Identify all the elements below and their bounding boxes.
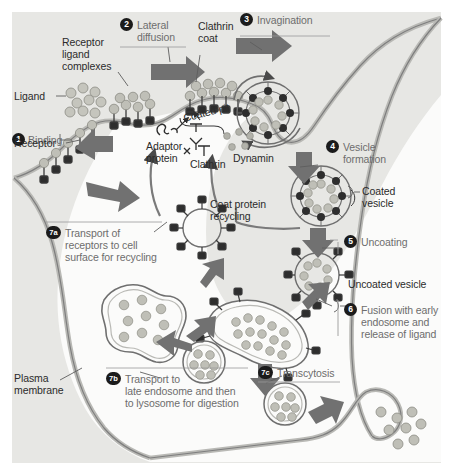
label-receptor-ligand-complexes: Receptor ligand complexes [62, 36, 111, 73]
step-badge-7c: 7c [258, 366, 273, 379]
label-ligand: Ligand [14, 90, 45, 102]
label-clathrin: Clathrin [190, 158, 225, 170]
label-receptor: Receptor [14, 137, 56, 149]
step-badge-2: 2 [120, 18, 133, 31]
step-label-7c: Transcytosis [277, 367, 334, 379]
label-dynamin: Dynamin [233, 152, 274, 164]
step-badge-4: 4 [326, 140, 339, 153]
step-label-6: Fusion with early endosome and release o… [361, 304, 438, 341]
label-uncoated-vesicle: Uncoated vesicle [348, 278, 426, 290]
step-badge-6: 6 [344, 303, 357, 316]
step-badge-5: 5 [344, 235, 357, 248]
step-label-4: Vesicle formation [343, 141, 386, 165]
label-adaptor-protein: Adaptor protein [146, 140, 182, 164]
step-label-3: Invagination [257, 14, 312, 26]
step-label-7b: Transport to late endosome and then to l… [125, 373, 239, 410]
label-plasma-membrane: Plasma membrane [14, 372, 63, 396]
step-badge-3: 3 [240, 13, 253, 26]
endocytosis-figure: 1 Binding 2 Lateral diffusion 3 Invagina… [0, 0, 453, 475]
step-badge-7a: 7a [46, 226, 61, 239]
step-label-2: Lateral diffusion [137, 19, 175, 43]
label-coated-vesicle: Coated vesicle [362, 185, 395, 209]
label-clathrin-coat: Clathrin coat [198, 20, 233, 44]
step-label-5: Uncoating [361, 236, 407, 248]
step-label-7a: Transport of receptors to cell surface f… [65, 227, 157, 264]
label-coat-protein-recycling: Coat protein recycling [210, 198, 266, 222]
step-badge-7b: 7b [106, 372, 121, 385]
